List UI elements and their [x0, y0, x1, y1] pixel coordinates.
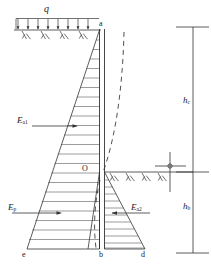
force-label-active-lower: Ea2 [131, 203, 142, 213]
ground-hatch-left [22, 31, 88, 39]
force-arrow-active-upper [32, 124, 78, 128]
retaining-wall [100, 29, 105, 249]
dimension-line-group [176, 27, 209, 253]
active-pressure-upper [27, 30, 100, 249]
point-label-e: e [22, 251, 26, 259]
force-subscript-ea2: a2 [137, 206, 142, 212]
force-subscript-ea1: a1 [23, 119, 28, 125]
force-arrow-passive [12, 211, 62, 215]
earth-pressure-figure [0, 0, 211, 266]
surcharge-arrows [17, 19, 90, 30]
ground-hatch-right [110, 173, 167, 181]
point-label-o: O [82, 165, 88, 173]
height-subscript-hc: c [188, 99, 190, 105]
active-upper-hatching [29, 40, 100, 240]
height-subscript-hb: b [188, 205, 191, 211]
force-label-passive: Ep [8, 203, 16, 213]
excavation-level-right [105, 172, 194, 181]
height-label-upper: hc [183, 96, 190, 106]
surcharge-load-group [16, 19, 99, 30]
height-label-lower: hb [183, 202, 190, 212]
point-label-b: b [99, 251, 103, 259]
point-label-a: a [99, 20, 103, 28]
ground-surface-left [14, 30, 101, 39]
passive-pressure-lower [88, 172, 100, 249]
point-label-d: d [141, 251, 145, 259]
deflection-curve-upper [104, 32, 125, 171]
surcharge-label: q [44, 4, 49, 14]
force-label-active-upper: Ea1 [17, 116, 28, 126]
diagram-canvas: q a O e b d Ea1 Ep Ea2 hc hb [0, 0, 211, 266]
active-lower-hatching [105, 180, 145, 248]
force-subscript-ep: p [14, 206, 17, 212]
passive-envelope [88, 172, 100, 249]
active-upper-envelope [27, 30, 100, 249]
